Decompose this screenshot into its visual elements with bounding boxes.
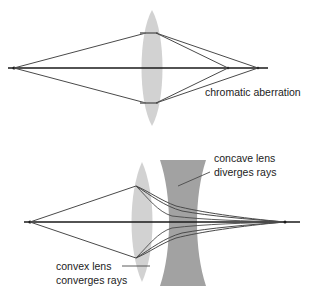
doublet-ray-upper-c-bottom [136,186,285,222]
doublet-ray-upper-b-bottom [136,186,285,222]
doublet-ray-lower-c-bottom [136,222,285,258]
panel-bottom-achromatic-doublet: concave lens diverges rays convex lens c… [24,152,300,286]
near-focal-point-top [227,67,230,70]
chromatic-aberration-label: chromatic aberration [205,86,301,98]
concave-lens-label-line2: diverges rays [214,166,276,178]
incoming-ray-upper-top [14,33,146,68]
panel-top-chromatic-aberration: chromatic aberration [8,10,301,126]
diagram-canvas: chromatic aberration [0,0,312,297]
incoming-ray-lower-bottom [30,222,136,258]
incoming-ray-upper-bottom [30,186,136,222]
far-focal-point-top [257,67,260,70]
refracted-ray-upper-near-focus-top [156,33,228,68]
doublet-ray-upper-a-bottom [136,186,285,222]
convex-lens-label-line1: convex lens [56,260,111,272]
optics-diagram-figure: chromatic aberration [0,0,312,297]
doublet-ray-lower-b-bottom [136,222,285,258]
convex-lens-label-line2: converges rays [56,274,127,286]
concave-lens-label-line1: concave lens [214,152,275,164]
incoming-ray-lower-top [14,68,146,103]
common-focal-point-bottom [284,221,287,224]
doublet-ray-lower-a-bottom [136,222,285,258]
concave-lens-shape-bottom [160,160,206,286]
refracted-ray-upper-far-focus-top [156,33,258,68]
